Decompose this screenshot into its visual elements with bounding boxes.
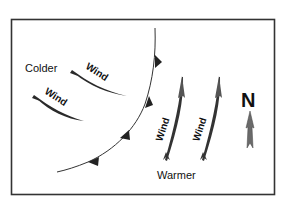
warmer-label: Warmer	[157, 169, 196, 181]
north-label: N	[241, 89, 255, 111]
weather-front-diagram: Colder Warmer Wind Wind Wind Wind N	[0, 0, 283, 209]
colder-label: Colder	[25, 62, 58, 74]
